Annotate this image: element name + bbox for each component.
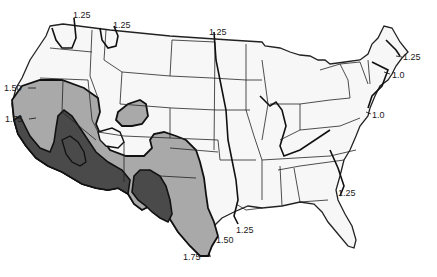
contour-label-ma-10: 1.0 bbox=[392, 70, 405, 80]
contour-label-or-150: 1.50 bbox=[4, 83, 22, 93]
contour-label-nd-125: 1.25 bbox=[209, 27, 227, 37]
contour-label-tx-150: 1.50 bbox=[216, 235, 234, 245]
contour-label-nj-10: 1.0 bbox=[372, 110, 385, 120]
contour-label-wa-125: 1.25 bbox=[73, 10, 91, 20]
contour-label-mt-125: 1.25 bbox=[113, 20, 131, 30]
contour-label-la-125: 1.25 bbox=[236, 225, 254, 235]
contour-label-ca-175: 1.75 bbox=[5, 114, 23, 124]
contour-label-me-125: 1.25 bbox=[403, 52, 421, 62]
contour-label-ga-125: 1.25 bbox=[338, 188, 356, 198]
contour-label-tx-175: 1.75 bbox=[183, 252, 201, 262]
